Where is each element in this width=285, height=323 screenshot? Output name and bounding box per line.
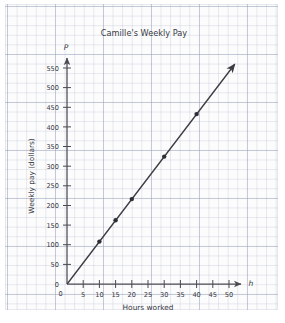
x-tick-label: 10 bbox=[95, 291, 103, 299]
y-axis-tick-labels: 0 50 100 150 200 250 300 350 400 450 500… bbox=[46, 65, 59, 289]
y-tick-label: 400 bbox=[46, 124, 59, 132]
y-tick-label: 100 bbox=[46, 241, 59, 249]
y-tick-label: 300 bbox=[46, 163, 59, 171]
data-point-marker[interactable] bbox=[97, 239, 101, 243]
x-axis-tick-labels: 0 5 10 15 20 25 30 35 40 45 50 bbox=[58, 290, 233, 299]
data-point-marker[interactable] bbox=[130, 197, 134, 201]
y-tick-label: 250 bbox=[46, 182, 59, 190]
x-axis-title: Hours worked bbox=[123, 303, 174, 312]
x-tick-label: 50 bbox=[225, 291, 233, 299]
data-point-marker[interactable] bbox=[113, 218, 117, 222]
data-point-marker[interactable] bbox=[162, 154, 166, 158]
y-tick-label: 450 bbox=[46, 104, 59, 112]
x-tick-label: 30 bbox=[160, 291, 168, 299]
x-tick-label: 5 bbox=[81, 291, 85, 299]
x-tick-label: 25 bbox=[144, 291, 152, 299]
x-tick-label: 45 bbox=[209, 291, 217, 299]
y-axis-title: Weekly pay (dollars) bbox=[27, 138, 36, 214]
chart-canvas: Camille's Weekly Pay P h 0 50 100 150 bbox=[0, 0, 285, 323]
y-tick-label: 500 bbox=[46, 84, 59, 92]
x-axis-variable-label: h bbox=[249, 279, 254, 288]
data-line-weekly-pay bbox=[68, 65, 235, 284]
chart-svg: Camille's Weekly Pay P h 0 50 100 150 bbox=[0, 0, 285, 323]
y-tick-label: 150 bbox=[46, 222, 59, 230]
x-tick-label: 0 bbox=[58, 290, 62, 298]
x-tick-label: 15 bbox=[111, 291, 119, 299]
y-tick-label: 200 bbox=[46, 202, 59, 210]
y-tick-label: 350 bbox=[46, 143, 59, 151]
y-tick-label: 0 bbox=[55, 281, 59, 289]
x-tick-label: 40 bbox=[192, 291, 200, 299]
y-tick-label: 550 bbox=[46, 65, 59, 73]
data-point-marker[interactable] bbox=[194, 112, 198, 116]
y-axis-variable-label: P bbox=[64, 43, 69, 52]
y-tick-label: 50 bbox=[51, 261, 59, 269]
chart-title: Camille's Weekly Pay bbox=[101, 28, 187, 38]
x-tick-label: 20 bbox=[128, 291, 136, 299]
x-tick-label: 35 bbox=[176, 291, 184, 299]
